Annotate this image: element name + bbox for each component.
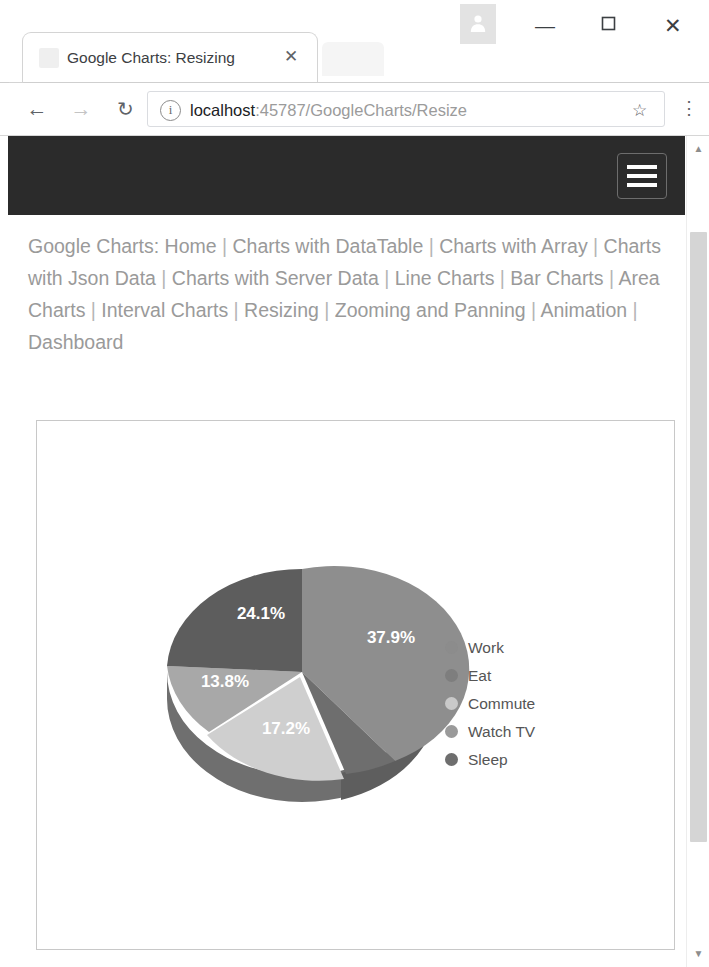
pie-label-watch-tv: 24.1%: [237, 604, 285, 623]
nav-separator: |: [156, 267, 172, 289]
browser-tab[interactable]: Google Charts: Resizing ✕: [22, 32, 318, 82]
nav-link-charts-with-datatable[interactable]: Charts with DataTable: [233, 235, 424, 257]
legend-color-swatch-icon: [445, 669, 458, 682]
legend-label: Watch TV: [468, 718, 535, 746]
browser-toolbar: ← → ↻ i localhost:45787/GoogleCharts/Res…: [0, 83, 709, 136]
pie-label-commute: 13.8%: [201, 672, 249, 691]
window-close-button[interactable]: ✕: [648, 6, 698, 46]
site-info-icon[interactable]: i: [160, 100, 181, 121]
nav-separator: |: [627, 299, 637, 321]
chrome-menu-icon[interactable]: ⋮: [678, 93, 700, 125]
browser-window: Google Charts: Resizing ✕ — ✕ ← → ↻ i lo…: [0, 0, 709, 967]
nav-separator: |: [319, 299, 335, 321]
nav-link-animation[interactable]: Animation: [540, 299, 627, 321]
nav-separator: |: [526, 299, 541, 321]
nav-link-charts-with-server-data[interactable]: Charts with Server Data: [172, 267, 379, 289]
reload-icon[interactable]: ↻: [108, 93, 142, 125]
forward-icon[interactable]: →: [64, 93, 98, 125]
nav-separator: |: [588, 235, 604, 257]
page-content: Google Charts: Home | Charts with DataTa…: [0, 136, 686, 967]
legend-color-swatch-icon: [445, 641, 458, 654]
pie-label-eat: 17.2%: [262, 719, 310, 738]
legend-color-swatch-icon: [445, 725, 458, 738]
nav-separator: |: [217, 235, 233, 257]
nav-link-dashboard[interactable]: Dashboard: [28, 331, 123, 353]
nav-separator: |: [604, 267, 619, 289]
legend-item[interactable]: Eat: [445, 661, 535, 689]
legend-item[interactable]: Commute: [445, 689, 535, 717]
legend-label: Sleep: [468, 746, 508, 774]
nav-separator: |: [423, 235, 439, 257]
window-minimize-button[interactable]: —: [520, 6, 570, 46]
nav-link-interval-charts[interactable]: Interval Charts: [101, 299, 228, 321]
legend-item[interactable]: Sleep: [445, 745, 535, 773]
site-nav-links: Google Charts: Home | Charts with DataTa…: [28, 230, 668, 358]
legend-color-swatch-icon: [445, 753, 458, 766]
site-navbar: [8, 136, 685, 215]
url-text: localhost:45787/GoogleCharts/Resize: [190, 98, 612, 122]
legend-label: Work: [468, 634, 504, 662]
pie-chart: 37.9% 24.1% 13.8% 17.2% WorkEatCommuteWa…: [37, 421, 674, 949]
legend-color-swatch-icon: [445, 697, 458, 710]
vertical-scrollbar[interactable]: ▲ ▼: [686, 136, 709, 967]
nav-link-charts-with-array[interactable]: Charts with Array: [439, 235, 587, 257]
legend-item[interactable]: Watch TV: [445, 717, 535, 745]
nav-separator: |: [494, 267, 510, 289]
back-icon[interactable]: ←: [20, 93, 54, 125]
profile-avatar-icon[interactable]: [460, 4, 496, 44]
tab-title: Google Charts: Resizing: [67, 47, 257, 69]
nav-link-resizing[interactable]: Resizing: [244, 299, 319, 321]
page-favicon-icon: [39, 48, 59, 68]
nav-link-bar-charts[interactable]: Bar Charts: [510, 267, 603, 289]
nav-link-home[interactable]: Home: [165, 235, 217, 257]
pie-chart-svg[interactable]: 37.9% 24.1% 13.8% 17.2%: [37, 421, 674, 949]
legend-label: Eat: [468, 662, 491, 690]
legend-item[interactable]: Work: [445, 633, 535, 661]
url-path: :45787/GoogleCharts/Resize: [255, 101, 467, 119]
scroll-down-icon[interactable]: ▼: [687, 943, 709, 965]
scrollbar-thumb[interactable]: [690, 232, 707, 842]
title-bar: Google Charts: Resizing ✕ — ✕: [0, 0, 709, 83]
address-bar[interactable]: i localhost:45787/GoogleCharts/Resize ☆: [147, 91, 665, 127]
nav-separator: |: [379, 267, 395, 289]
hamburger-menu-icon[interactable]: [617, 153, 667, 199]
tab-close-icon[interactable]: ✕: [281, 47, 301, 67]
nav-link-zooming-and-panning[interactable]: Zooming and Panning: [335, 299, 526, 321]
page-viewport: Google Charts: Home | Charts with DataTa…: [0, 136, 709, 967]
nav-link-line-charts[interactable]: Line Charts: [395, 267, 495, 289]
scroll-up-icon[interactable]: ▲: [687, 138, 709, 160]
url-host: localhost: [190, 101, 255, 119]
chart-container: 37.9% 24.1% 13.8% 17.2% WorkEatCommuteWa…: [36, 420, 675, 950]
nav-separator: |: [228, 299, 244, 321]
new-tab-area[interactable]: [322, 42, 384, 76]
window-maximize-button[interactable]: [583, 6, 633, 46]
chart-legend: WorkEatCommuteWatch TVSleep: [445, 633, 535, 773]
bookmark-star-icon[interactable]: ☆: [628, 100, 650, 122]
nav-separator: |: [85, 299, 101, 321]
pie-label-work: 37.9%: [367, 628, 415, 647]
legend-label: Commute: [468, 690, 535, 718]
